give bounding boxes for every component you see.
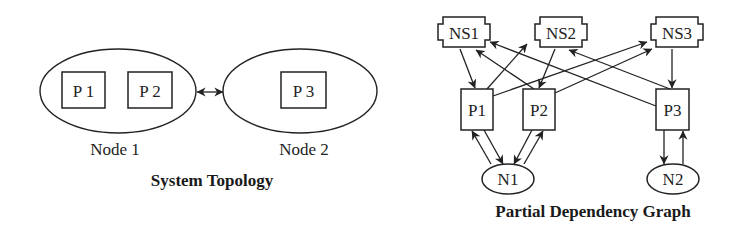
node-1-label: Node 1	[90, 140, 140, 159]
node-label: N1	[498, 170, 519, 189]
diagram-canvas: P 1 P 2 Node 1 P 3 Node 2 System Topolog…	[0, 0, 741, 234]
system-topology-title: System Topology	[151, 171, 274, 190]
process-label: P 3	[293, 82, 315, 101]
graph-process-p1: P1	[461, 89, 493, 130]
edge-p3-ns2	[569, 50, 670, 89]
edge-p1-n1	[484, 130, 503, 164]
process-label: P 1	[73, 82, 95, 101]
name-server-label: NS1	[449, 24, 479, 43]
process-label: P1	[468, 101, 486, 120]
process-label: P 2	[139, 82, 161, 101]
process-label: P2	[530, 101, 548, 120]
node-label: N2	[663, 170, 684, 189]
topology-process-p2: P 2	[128, 72, 172, 108]
graph-process-p2: P2	[523, 89, 555, 130]
node-2-label: Node 2	[279, 140, 329, 159]
name-server-ns2: NS2	[535, 17, 587, 47]
name-server-ns3: NS3	[651, 17, 703, 47]
edge-p2-n1	[514, 130, 532, 164]
name-server-label: NS3	[662, 24, 692, 43]
edge-p1-ns2	[487, 44, 527, 89]
graph-node-n1: N1	[482, 164, 534, 194]
edge-n1-p2	[524, 131, 543, 164]
graph-process-p3: P3	[656, 89, 689, 130]
edge-n1-p1	[472, 131, 491, 164]
name-server-label: NS2	[546, 24, 576, 43]
process-label: P3	[664, 101, 682, 120]
node-2-ellipse: P 3	[223, 49, 377, 133]
node-1-ellipse: P 1 P 2	[40, 49, 196, 133]
dependency-graph: NS1 NS2 NS3 P1 P2 P3 N1 N2	[438, 17, 703, 221]
topology-process-p3: P 3	[281, 72, 326, 108]
graph-node-n2: N2	[647, 164, 699, 194]
name-server-ns1: NS1	[438, 17, 490, 47]
dependency-graph-title: Partial Dependency Graph	[495, 202, 691, 221]
edge-ns2-p2	[539, 49, 555, 88]
topology-process-p1: P 1	[62, 72, 105, 108]
system-topology: P 1 P 2 Node 1 P 3 Node 2 System Topolog…	[40, 49, 377, 190]
edge-ns1-p1	[460, 49, 475, 88]
